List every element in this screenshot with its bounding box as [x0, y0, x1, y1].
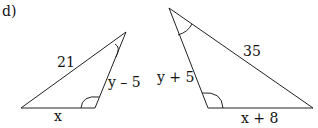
triangle1-hypotenuse-label: 21	[57, 55, 75, 69]
angle-arc-top-2	[178, 24, 192, 35]
triangle-2	[169, 8, 313, 108]
part-label: d)	[2, 4, 16, 18]
similar-triangles-diagram	[0, 0, 318, 128]
triangle1-base-label: x	[54, 109, 62, 123]
angle-arc-top-1	[115, 44, 118, 57]
triangle2-base-label: x + 8	[241, 111, 278, 125]
triangle2-hypotenuse-label: 35	[243, 44, 261, 58]
triangle2-side-label: y + 5	[157, 70, 194, 84]
angle-arc-bottom-1	[81, 97, 99, 108]
triangle1-side-label: y – 5	[108, 75, 141, 89]
triangle-1	[21, 32, 126, 108]
